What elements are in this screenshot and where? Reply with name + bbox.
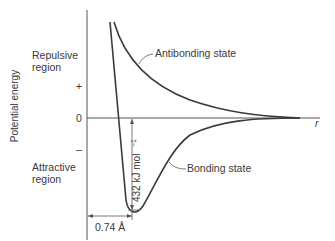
bonding-label: Bonding state [187,162,251,174]
repulsive-region-label-2: region [32,61,61,73]
tick-zero: 0 [76,112,82,124]
antibonding-label: Antibonding state [155,47,236,59]
bond-length-label: 0.74 Å [95,221,125,233]
antibonding-leader [139,54,153,64]
arrowhead-up [130,119,134,124]
well-depth-exponent: −1 [130,139,137,147]
arrowhead-left [88,214,93,218]
antibonding-curve [114,22,300,118]
arrowhead-down [130,205,134,210]
tick-minus: – [76,143,83,155]
attractive-region-label-1: Attractive [32,161,76,173]
repulsive-region-label-1: Repulsive [32,49,78,61]
r-axis-label: r [315,118,319,129]
tick-plus: + [76,80,82,92]
bonding-leader [169,162,186,169]
well-depth-value: 432 kJ mol [131,154,142,202]
potential-energy-diagram: Potential energy Repulsive region + 0 – … [0,0,335,241]
y-axis-label: Potential energy [9,70,20,142]
attractive-region-label-2: region [32,173,61,185]
arrowhead-right [127,214,132,218]
